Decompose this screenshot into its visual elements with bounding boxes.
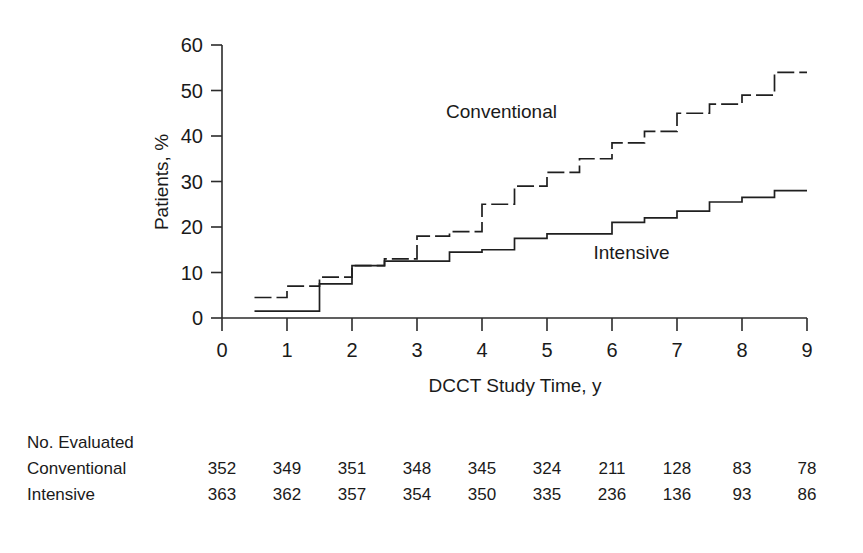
x-tick-1: 1 bbox=[281, 339, 292, 361]
table-header-label: No. Evaluated bbox=[27, 430, 134, 456]
x-axis-tick-labels: 0 1 2 3 4 5 6 7 8 9 bbox=[216, 339, 812, 361]
table-cell: 128 bbox=[650, 456, 704, 482]
table-cell: 362 bbox=[260, 482, 314, 508]
table-cell: 324 bbox=[520, 456, 574, 482]
table-cell: 363 bbox=[195, 482, 249, 508]
y-tick-0: 0 bbox=[192, 307, 203, 329]
table-cell: 350 bbox=[455, 482, 509, 508]
table-cell: 211 bbox=[585, 456, 639, 482]
table-cell: 357 bbox=[325, 482, 379, 508]
series-label-conventional: Conventional bbox=[446, 101, 557, 122]
table-row-label-conventional: Conventional bbox=[27, 456, 126, 482]
table-cell: 93 bbox=[715, 482, 769, 508]
x-tick-5: 5 bbox=[541, 339, 552, 361]
table-row: Conventional 352 349 351 348 345 324 211… bbox=[0, 456, 863, 482]
no-evaluated-table: No. Evaluated Conventional 352 349 351 3… bbox=[0, 430, 863, 508]
table-header-row: No. Evaluated bbox=[0, 430, 863, 456]
x-tick-6: 6 bbox=[606, 339, 617, 361]
table-cell: 335 bbox=[520, 482, 574, 508]
x-axis-ticks bbox=[222, 318, 807, 331]
table-cell: 136 bbox=[650, 482, 704, 508]
y-tick-50: 50 bbox=[181, 80, 203, 102]
table-cell: 236 bbox=[585, 482, 639, 508]
series-label-intensive: Intensive bbox=[593, 242, 669, 263]
y-tick-60: 60 bbox=[181, 34, 203, 56]
x-axis-title: DCCT Study Time, y bbox=[429, 375, 602, 396]
x-tick-2: 2 bbox=[346, 339, 357, 361]
table-row-label-intensive: Intensive bbox=[27, 482, 95, 508]
table-cell: 351 bbox=[325, 456, 379, 482]
table-cell: 345 bbox=[455, 456, 509, 482]
x-tick-8: 8 bbox=[736, 339, 747, 361]
table-cell: 349 bbox=[260, 456, 314, 482]
x-tick-3: 3 bbox=[411, 339, 422, 361]
series-intensive-curve bbox=[255, 191, 808, 312]
x-tick-9: 9 bbox=[801, 339, 812, 361]
table-cell: 352 bbox=[195, 456, 249, 482]
y-axis-tick-labels: 60 50 40 30 20 10 0 bbox=[181, 34, 203, 329]
x-tick-7: 7 bbox=[671, 339, 682, 361]
table-cell: 83 bbox=[715, 456, 769, 482]
x-tick-4: 4 bbox=[476, 339, 487, 361]
y-tick-40: 40 bbox=[181, 125, 203, 147]
y-tick-30: 30 bbox=[181, 171, 203, 193]
table-cell: 348 bbox=[390, 456, 444, 482]
x-tick-0: 0 bbox=[216, 339, 227, 361]
y-tick-10: 10 bbox=[181, 262, 203, 284]
y-axis-ticks bbox=[211, 45, 222, 318]
table-cell: 86 bbox=[780, 482, 834, 508]
table-cell: 78 bbox=[780, 456, 834, 482]
y-axis-title: Patients, % bbox=[151, 134, 172, 230]
table-cell: 354 bbox=[390, 482, 444, 508]
table-row: Intensive 363 362 357 354 350 335 236 13… bbox=[0, 482, 863, 508]
y-tick-20: 20 bbox=[181, 216, 203, 238]
figure-container: 60 50 40 30 20 10 0 0 1 2 3 4 bbox=[0, 0, 863, 553]
